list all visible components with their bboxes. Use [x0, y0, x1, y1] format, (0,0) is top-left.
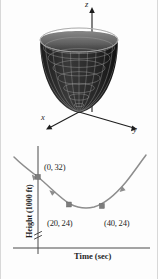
point-label-20-24: (20, 24) [47, 219, 72, 228]
figure-page: z x y [0, 0, 158, 279]
chart-y-axis-label: Height (1000 ft) [26, 184, 34, 238]
height-time-chart-panel: Height (1000 ft) Time (sec) (0, 32) (20,… [0, 138, 158, 279]
point-label-40-24: (40, 24) [104, 219, 129, 228]
paraboloid-3d-svg [0, 0, 158, 140]
page-border-left [0, 0, 1, 279]
point-label-0-32: (0, 32) [44, 163, 65, 172]
y-axis-label: y [133, 125, 137, 134]
page-border-right [157, 0, 158, 279]
curve-point-markers [35, 174, 104, 208]
chart-x-axis-label: Time (sec) [74, 252, 111, 261]
x-axis [46, 112, 79, 130]
curve-direction-arrows [32, 175, 126, 196]
z-axis-label: z [85, 0, 88, 9]
x-axis-label: x [41, 113, 45, 122]
paraboloid-3d-panel: z x y [0, 0, 158, 140]
y-axis [79, 112, 137, 131]
paraboloid-surface [40, 28, 118, 113]
